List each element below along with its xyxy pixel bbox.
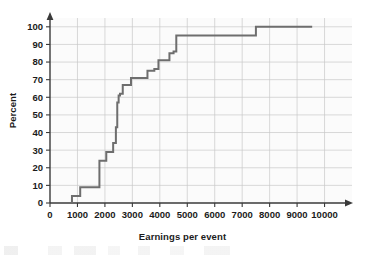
svg-text:6000: 6000 [204,209,225,220]
plot-area: 0100020003000400050006000700080009000100… [0,0,365,232]
svg-text:10000: 10000 [311,209,337,220]
svg-text:8000: 8000 [259,209,280,220]
svg-text:50: 50 [32,109,43,120]
svg-text:80: 80 [32,56,43,67]
svg-text:40: 40 [32,127,43,138]
svg-text:9000: 9000 [287,209,308,220]
x-axis-tick-labels: 0100020003000400050006000700080009000100… [47,209,337,220]
svg-text:30: 30 [32,145,43,156]
figure-container: 0100020003000400050006000700080009000100… [0,0,365,257]
scan-artifact-strip [4,246,254,255]
y-axis-title: Percent [7,76,18,146]
svg-text:5000: 5000 [177,209,198,220]
svg-text:1000: 1000 [67,209,88,220]
svg-text:10: 10 [32,180,43,191]
svg-text:0: 0 [47,209,52,220]
svg-text:70: 70 [32,74,43,85]
svg-text:2000: 2000 [94,209,115,220]
svg-text:3000: 3000 [122,209,143,220]
svg-text:7000: 7000 [232,209,253,220]
y-axis-arrowhead [47,12,54,20]
x-axis-title: Earnings per event [0,231,365,242]
svg-text:90: 90 [32,39,43,50]
plot-background [50,18,352,203]
svg-text:0: 0 [38,197,43,208]
cumulative-percent-step-chart: 0100020003000400050006000700080009000100… [0,0,365,232]
svg-text:4000: 4000 [149,209,170,220]
svg-text:60: 60 [32,92,43,103]
y-axis-tick-labels: 0102030405060708090100 [27,21,43,208]
svg-text:100: 100 [27,21,43,32]
svg-text:20: 20 [32,162,43,173]
